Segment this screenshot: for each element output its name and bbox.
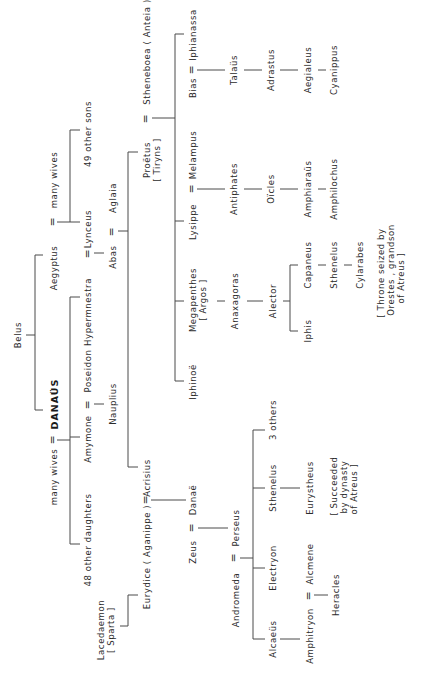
marriage-symbol: = — [185, 523, 198, 532]
node-melampus: Melampus — [188, 131, 198, 179]
marriage-symbol: = — [139, 114, 152, 123]
node-danaus-wives: many wives — [49, 449, 59, 506]
node-electryon: Electryon — [268, 545, 278, 590]
node-antiphates: Antiphates — [229, 163, 239, 215]
node-nauplius: Nauplius — [108, 383, 118, 425]
node-proetus-note: [ Tiryns ] — [152, 138, 162, 182]
node-abas: Abas — [108, 245, 118, 268]
node-three-others: 3 others — [268, 400, 278, 440]
node-cyanippus: Cyanippus — [329, 45, 339, 95]
marriage-symbol: = — [81, 400, 94, 409]
node-lacedaemon: Lacedaemon — [96, 600, 106, 661]
node-lacedaemon-note: [ Sparta ] — [106, 607, 116, 653]
node-talaus: Talaüs — [229, 55, 239, 86]
node-aglaia: Aglaia — [108, 183, 118, 213]
node-megapenthes-note: [ Argos ] — [198, 279, 208, 321]
marriage-symbol: = — [46, 435, 59, 444]
node-megapenthes: Megapenthes — [188, 268, 198, 332]
node-lynceus: Lynceus — [83, 210, 93, 248]
node-other-sons: 49 other sons — [83, 101, 93, 167]
marriage-symbol: = — [185, 184, 198, 193]
marriage-symbol: = — [105, 227, 118, 236]
succeeded-note-line1: [ Succeeded — [329, 456, 339, 515]
node-oicles: Oïcles — [266, 174, 276, 203]
node-anaxagoras: Anaxagoras — [230, 273, 240, 329]
node-amphilochus: Amphilochus — [329, 158, 339, 219]
marriage-symbol: = — [139, 495, 152, 504]
throne-note-line3: of Atreus ] — [396, 253, 406, 304]
node-andromeda: Andromeda — [231, 573, 241, 628]
node-iphianassa: Iphianassa — [188, 9, 198, 61]
node-aegyptus: Aegyptus — [49, 246, 59, 291]
node-amphitryon: Amphitryon — [305, 608, 315, 664]
node-amphiaraus: Amphiaraüs — [303, 161, 313, 218]
names: Belus Aegyptus = many wives DANAÜS = man… — [13, 0, 406, 664]
node-alcaeus: Alcaeüs — [268, 620, 278, 657]
node-zeus: Zeus — [188, 540, 198, 563]
node-sthenelus-perseus-son: Sthenelus — [268, 464, 278, 512]
marriage-symbol: = — [227, 553, 240, 562]
node-aegyptus-wives: many wives — [49, 152, 59, 209]
node-iphis: Iphis — [303, 319, 313, 342]
node-belus: Belus — [13, 322, 23, 348]
node-eurystheus: Eurystheus — [305, 461, 315, 514]
node-perseus: Perseus — [231, 509, 241, 546]
node-alcmene: Alcmene — [305, 543, 315, 584]
node-poseidon: Poseidon — [83, 350, 93, 393]
node-eurydice: Eurydice ( Aganippe ) — [142, 505, 152, 609]
succeeded-note-line2: by dynasty — [339, 461, 349, 514]
node-other-daughters: 48 other daughters — [83, 494, 93, 587]
node-alector: Alector — [268, 284, 278, 318]
marriage-symbol: = — [185, 65, 198, 74]
node-danae: Danaë — [188, 485, 198, 516]
throne-note-line1: [ Throne seized by — [376, 228, 386, 317]
family-tree-diagram: Belus Aegyptus = many wives DANAÜS = man… — [0, 0, 423, 689]
node-amymone: Amymone — [83, 415, 93, 462]
succeeded-note-line3: of Atreus ] — [349, 464, 359, 515]
node-proetus: Proëtus — [142, 142, 152, 178]
node-acrisius: Acrisius — [142, 459, 152, 497]
node-sthenelus-capaneus-son: Sthenelus — [329, 241, 339, 289]
marriage-symbol: = — [46, 217, 59, 226]
node-hypermnestra: Hypermnestra — [83, 278, 93, 346]
marriage-symbol: = — [302, 591, 315, 600]
throne-note-line2: Orestes , grandson — [386, 224, 396, 315]
node-stheneboea: Stheneboea ( Anteia ) — [142, 0, 152, 105]
marriage-symbol: = — [81, 249, 94, 258]
node-iphinoe: Iphinoë — [188, 364, 198, 400]
node-adrastus: Adrastus — [266, 49, 276, 91]
node-bias: Bias — [188, 78, 198, 98]
node-cylarabes: Cylarabes — [355, 241, 365, 289]
node-heracles: Heracles — [331, 574, 341, 616]
node-aegialeus: Aegialeus — [303, 47, 313, 94]
node-danaus: DANAÜS — [49, 379, 60, 430]
node-capaneus: Capaneus — [303, 242, 313, 289]
node-lysippe: Lysippe — [188, 204, 198, 240]
